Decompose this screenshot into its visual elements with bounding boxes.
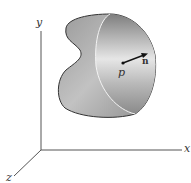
z-axis-label: z bbox=[6, 172, 12, 183]
y-axis-label: y bbox=[36, 17, 42, 28]
diagram-canvas bbox=[0, 0, 191, 183]
z-axis bbox=[14, 150, 41, 176]
normal-n-label: n bbox=[142, 57, 149, 66]
x-axis-label: x bbox=[184, 143, 190, 154]
point-p-label: p bbox=[118, 67, 125, 78]
